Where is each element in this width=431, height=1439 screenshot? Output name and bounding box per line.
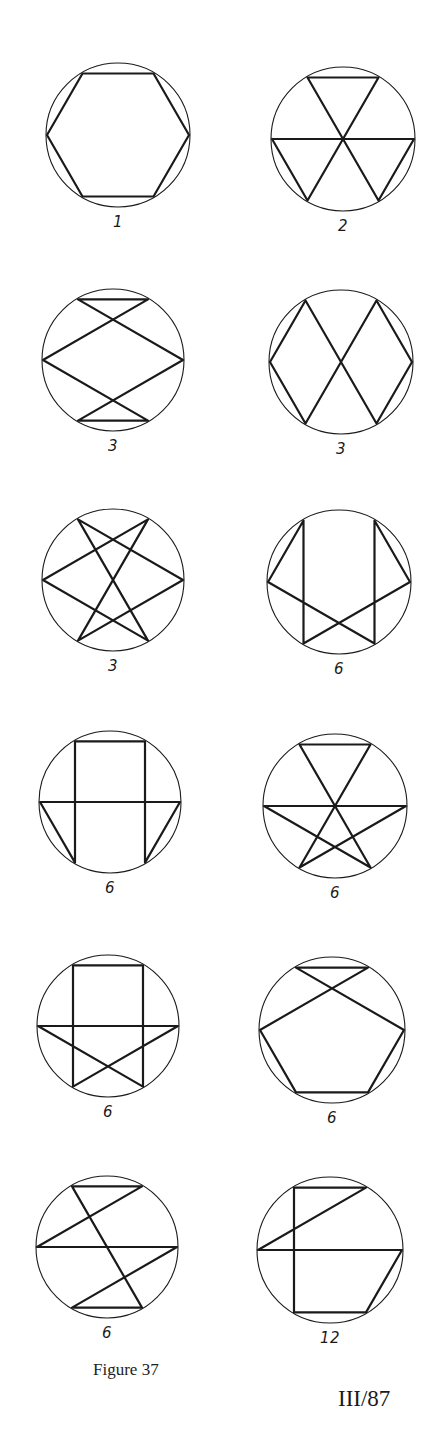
figure-37-canvas — [0, 0, 431, 1439]
hexagram-diagram — [263, 734, 407, 878]
circle-outline — [267, 510, 411, 654]
diagram-label: 2 — [338, 217, 348, 235]
circle-outline — [42, 289, 184, 431]
hexagram-diagram — [42, 509, 184, 651]
diagram-label: 1 — [113, 213, 123, 231]
chord-path — [272, 78, 414, 201]
circle-outline — [46, 63, 190, 207]
diagram-label: 3 — [108, 657, 118, 675]
hexagram-diagram — [36, 1176, 178, 1318]
diagram-label: 6 — [330, 884, 340, 902]
diagram-label: 6 — [327, 1109, 337, 1127]
chord-path — [40, 741, 180, 862]
circle-outline — [259, 957, 405, 1103]
hexagram-diagram — [267, 510, 411, 654]
chord-path — [258, 1188, 402, 1313]
diagram-label: 12 — [320, 1329, 340, 1347]
chord-path — [260, 968, 404, 1093]
chord-path — [43, 299, 183, 420]
diagram-label: 6 — [102, 1324, 112, 1342]
hexagram-diagram — [257, 1177, 403, 1323]
chord-path — [47, 74, 189, 197]
hexagram-diagram — [46, 63, 190, 207]
diagram-label: 6 — [103, 1103, 113, 1121]
diagram-label: 6 — [105, 879, 115, 897]
chord-path — [37, 1186, 177, 1307]
chord-path — [38, 965, 178, 1086]
figure-caption: Figure 37 — [93, 1360, 159, 1380]
diagram-label: 3 — [108, 437, 118, 455]
hexagram-diagram — [39, 731, 181, 873]
hexagram-diagram — [269, 290, 413, 434]
chord-path — [264, 745, 406, 868]
chord-path — [43, 519, 183, 640]
page-number: III/87 — [338, 1386, 390, 1412]
chord-path — [270, 301, 412, 424]
hexagram-diagram — [37, 955, 179, 1097]
diagram-label: 3 — [336, 440, 346, 458]
hexagram-diagram — [259, 957, 405, 1103]
hexagram-diagram — [42, 289, 184, 431]
chord-path — [268, 521, 410, 644]
hexagram-diagram — [271, 67, 415, 211]
diagram-label: 6 — [334, 660, 344, 678]
